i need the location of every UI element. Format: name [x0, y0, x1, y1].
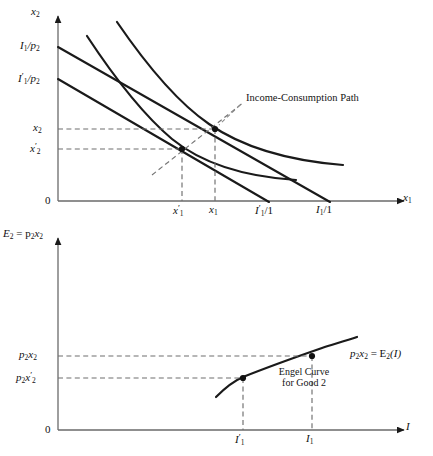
top-xtick-x1prime: x′1 [173, 204, 184, 217]
top-origin-label: 0 [45, 194, 51, 206]
bottom-xtick-I1: I1 [306, 433, 313, 446]
engel-curve-label-line1: Engel Curve [279, 366, 329, 377]
equilibrium-low-point [179, 146, 185, 152]
top-ytick-I1prime-over-p2: I′1/p2 [18, 72, 40, 85]
bottom-ytick-p2x2prime: p2x′2 [16, 371, 36, 384]
engel-point-low [240, 375, 246, 381]
top-x-axis-label: x1 [403, 192, 412, 205]
top-panel [58, 16, 404, 202]
engel-curve-label: Engel Curve for Good 2 [268, 366, 340, 388]
economics-figure: x2 x1 0 I1/p2 I′1/p2 x2 x′2 x′1 x1 I′1/1… [0, 0, 433, 456]
bottom-panel [58, 238, 404, 430]
top-y-axis-label: x2 [31, 6, 40, 19]
figure-canvas [0, 0, 433, 456]
indifference-curve-low [87, 36, 296, 180]
top-xtick-I1prime-over-1: I′1/1 [255, 204, 273, 217]
income-consumption-path [152, 102, 244, 175]
top-ytick-x2: x2 [33, 122, 42, 135]
income-consumption-path-label: Income-Consumption Path [246, 92, 359, 103]
equilibrium-high-point [212, 126, 218, 132]
top-ytick-x2prime: x′2 [30, 142, 41, 155]
top-xtick-x1: x1 [209, 204, 218, 217]
bottom-ytick-p2x2: p2x2 [19, 349, 37, 362]
path-label-pointer [219, 105, 240, 125]
top-ytick-I1-over-p2: I1/p2 [20, 40, 40, 53]
bottom-y-axis-label: E2 = p2x2 [3, 228, 43, 241]
bottom-x-axis-label: I [406, 421, 410, 433]
engel-curve-label-line2: for Good 2 [282, 377, 326, 388]
engel-point-high [309, 353, 315, 359]
bottom-origin-label: 0 [45, 423, 51, 435]
bottom-xtick-I1prime: I′1 [235, 433, 244, 446]
engel-function-label: p2x2 = E2(I) [350, 348, 401, 361]
top-xtick-I1-over-1: I1/1 [316, 204, 332, 217]
